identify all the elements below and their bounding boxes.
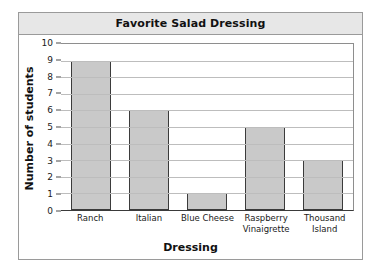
y-axis-tick-label: 9 [47, 55, 53, 64]
x-axis-tick-labels: RanchItalianBlue CheeseRaspberryVinaigre… [61, 213, 354, 234]
y-axis-tick-label: 5 [47, 123, 53, 132]
y-axis-tick-label: 10 [42, 39, 53, 48]
y-axis-tick-label: 1 [47, 190, 53, 199]
gridline [61, 193, 353, 194]
x-axis-tick-label: RaspberryVinaigrette [237, 213, 296, 234]
chart-container: Favorite Salad Dressing Number of studen… [18, 12, 363, 260]
chart-title-bar: Favorite Salad Dressing [19, 13, 362, 35]
y-axis-tick-labels: 012345678910 [39, 43, 56, 211]
x-axis-title: Dressing [19, 241, 362, 254]
gridline [61, 77, 353, 78]
gridline [61, 61, 353, 62]
y-axis-tick-label: 6 [47, 106, 53, 115]
y-axis-title-text: Number of students [24, 67, 37, 191]
x-axis-tick-label: Italian [120, 213, 179, 234]
plot-wrapper: 012345678910 [39, 43, 354, 211]
x-axis-tick-label: Ranch [61, 213, 120, 234]
x-axis-tick-label: ThousandIsland [295, 213, 354, 234]
bar [245, 127, 284, 210]
x-axis-tick-label: Blue Cheese [178, 213, 237, 234]
gridline [61, 144, 353, 145]
plot-area [61, 43, 354, 211]
page-title: Favorite Salad Dressing [116, 17, 266, 30]
gridline [61, 110, 353, 111]
gridline [61, 160, 353, 161]
bar [303, 160, 342, 210]
y-axis-tick-label: 4 [47, 139, 53, 148]
gridline [61, 177, 353, 178]
gridline [61, 94, 353, 95]
y-axis-tick-label: 7 [47, 89, 53, 98]
y-axis-tick-label: 3 [47, 156, 53, 165]
gridline [61, 127, 353, 128]
bar [71, 61, 110, 210]
bar [187, 193, 226, 210]
y-axis-tick-label: 8 [47, 72, 53, 81]
y-axis-tick-label: 0 [47, 207, 53, 216]
y-axis-title: Number of students [21, 41, 39, 216]
y-axis-tick-label: 2 [47, 173, 53, 182]
